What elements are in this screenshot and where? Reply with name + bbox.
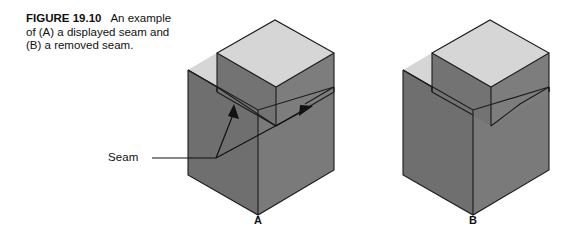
object-a-displayed-seam [152, 20, 334, 215]
part-label-a: A [246, 214, 270, 226]
figure-19-10: FIGURE 19.10An example of (A) a displaye… [0, 0, 586, 243]
seam-annotation-label: Seam [108, 151, 138, 163]
part-label-b: B [461, 214, 485, 226]
object-b-removed-seam [403, 20, 549, 215]
figure-artwork [0, 0, 586, 243]
